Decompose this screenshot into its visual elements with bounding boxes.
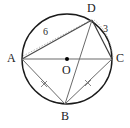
center-dot	[65, 57, 69, 61]
vertex-label-D: D	[87, 2, 96, 14]
tick-BC	[85, 80, 91, 86]
vertex-label-C: C	[116, 52, 124, 64]
circle-geometry-diagram: A B C D O 6 3	[0, 0, 130, 128]
auxiliary-AD-dotted-line	[23, 20, 91, 56]
vertex-label-A: A	[7, 52, 16, 64]
vertex-label-B: B	[61, 110, 69, 122]
side-length-DC: 3	[103, 24, 108, 34]
center-label-O: O	[62, 64, 71, 76]
side-length-AD: 6	[43, 27, 48, 37]
